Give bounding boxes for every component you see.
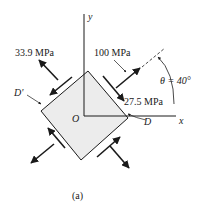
normal-arrow-upper-right [116,68,140,88]
point-d-prime-label: D' [13,87,24,98]
figure-caption: (a) [72,190,83,202]
origin-label: O [72,113,79,124]
normal-arrow-lower-right [110,146,129,168]
leader-d-prime [27,95,41,104]
rotated-axis-line [142,48,165,67]
normal-arrow-upper-left [39,60,58,80]
stress-element-diagram: y x O D D' 33.9 MPa 100 MPa 27.5 MPa θ =… [0,0,203,211]
y-axis-label: y [87,11,93,22]
x-axis-label: x [178,115,184,126]
stress-label-100: 100 MPa [94,47,131,58]
leader-100mpa [114,60,126,72]
point-d-label: D [143,116,152,127]
normal-arrow-lower-left [31,144,54,163]
stress-label-27-5: 27.5 MPa [124,96,163,107]
stress-label-33-9: 33.9 MPa [15,47,54,58]
angle-label: θ = 40° [160,75,191,86]
